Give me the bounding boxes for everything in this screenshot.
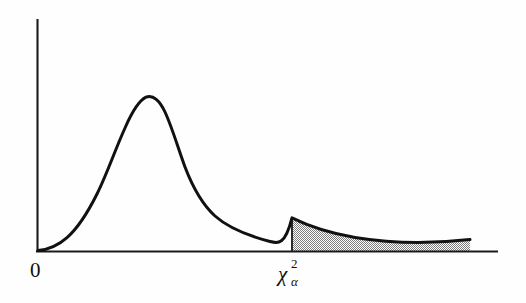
chi-glyph: χ — [276, 262, 288, 286]
chi-subscript-alpha: α — [291, 274, 299, 289]
chi-square-density-curve — [38, 96, 470, 250]
rejection-region-shading — [292, 210, 472, 252]
chi-square-figure: 0 χ 2 α — [0, 0, 526, 303]
chi-superscript-2: 2 — [291, 256, 298, 271]
chi-square-plot: 0 χ 2 α — [0, 0, 526, 303]
critical-value-label: χ 2 α — [276, 256, 299, 289]
origin-label: 0 — [30, 258, 41, 282]
